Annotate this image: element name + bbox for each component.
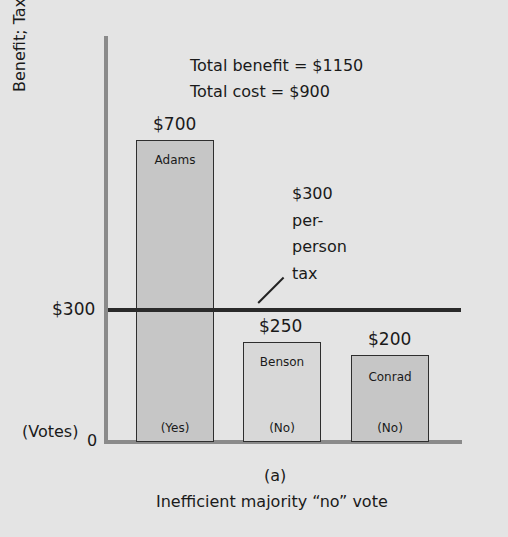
bar-value-conrad: $200 xyxy=(368,329,411,349)
total-cost-annotation: Total cost = $900 xyxy=(190,82,330,101)
tax-leader-line xyxy=(257,277,284,304)
bar-vote-benson: (No) xyxy=(244,421,320,435)
tax-note-line-4: tax xyxy=(292,261,347,288)
bar-value-adams: $700 xyxy=(153,114,196,134)
origin-label: 0 xyxy=(87,431,97,450)
tax-note: $300 per- person tax xyxy=(292,181,347,287)
tax-reference-line xyxy=(108,308,461,312)
bar-value-benson: $250 xyxy=(259,316,302,336)
bar-benson: Benson (No) xyxy=(243,342,321,442)
bar-vote-adams: (Yes) xyxy=(137,421,213,435)
tax-tick-label: $300 xyxy=(52,299,95,319)
tax-note-line-3: person xyxy=(292,234,347,261)
total-benefit-annotation: Total benefit = $1150 xyxy=(190,56,363,75)
tax-note-line-2: per- xyxy=(292,208,347,235)
bar-conrad: Conrad (No) xyxy=(351,355,429,442)
chart-caption: Inefficient majority “no” vote xyxy=(156,492,388,511)
bleed-through-texture xyxy=(0,0,508,537)
bar-name-adams: Adams xyxy=(137,153,213,167)
bar-name-conrad: Conrad xyxy=(352,370,428,384)
bar-name-benson: Benson xyxy=(244,355,320,369)
y-axis-label: Benefit; Tax xyxy=(10,0,29,92)
votes-label: (Votes) xyxy=(22,422,78,441)
bar-vote-conrad: (No) xyxy=(352,421,428,435)
y-axis xyxy=(104,36,108,444)
panel-label: (a) xyxy=(264,466,286,485)
bar-adams: Adams (Yes) xyxy=(136,140,214,442)
tax-note-line-1: $300 xyxy=(292,181,347,208)
